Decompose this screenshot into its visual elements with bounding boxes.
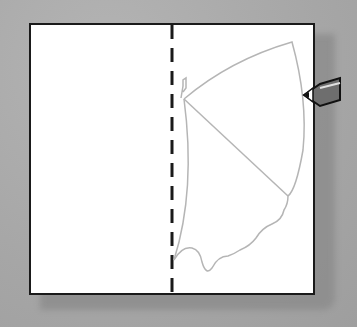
pencil-icon xyxy=(304,78,340,106)
butterfly-wing-outline xyxy=(174,42,304,271)
drawing xyxy=(0,0,357,327)
